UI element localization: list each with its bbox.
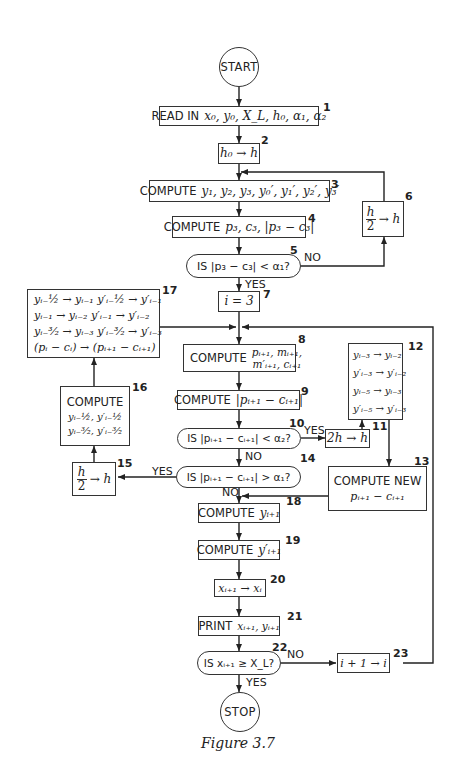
print-keyword: PRINT	[198, 619, 232, 634]
decision-10-text: IS |pᵢ₊₁ − cᵢ₊₁| < α₂?	[187, 431, 291, 446]
start-terminal: START	[219, 47, 259, 87]
step-number-5: 5	[290, 244, 298, 257]
decision-14-yes-label: YES	[152, 465, 173, 478]
step-number-18: 18	[286, 495, 301, 508]
step-number-19: 19	[285, 534, 300, 547]
double-h-box: 2h → h	[325, 429, 370, 448]
decision-alpha1-box: IS |p₃ − c₃| < α₁?	[186, 254, 301, 278]
advance-x-box: xᵢ₊₁ → xᵢ	[214, 579, 266, 597]
decision-5-text: IS |p₃ − c₃| < α₁?	[197, 259, 290, 274]
step-number-8: 8	[298, 333, 306, 346]
halve-h-box-15: h 2 → h	[72, 462, 116, 496]
compute-keyword-19: COMPUTE	[197, 543, 254, 558]
decision-10-yes-label: YES	[304, 424, 325, 437]
compute-new-content: COMPUTE NEW pᵢ₊₁ − cᵢ₊₁	[334, 474, 422, 504]
step-number-20: 20	[270, 573, 285, 586]
step-number-11: 11	[372, 420, 387, 433]
init-i-box: i = 3	[218, 291, 260, 312]
shift-values-lines-12: yᵢ₋₃ → yᵢ₋₂ y′ᵢ₋₃ → y′ᵢ₋₂ yᵢ₋₅ → yᵢ₋₃ y′…	[353, 346, 406, 418]
decision-22-no-label: NO	[287, 648, 304, 661]
compute-yprime-box: COMPUTE y′ᵢ₊₁	[198, 540, 280, 560]
shift-values-box-17: yᵢ₋½ → yᵢ₋₁ y′ᵢ₋½ → y′ᵢ₋₁ yᵢ₋₁ → yᵢ₋₂ y′…	[27, 289, 160, 358]
figure-caption: Figure 3.7	[201, 735, 275, 751]
step-number-21: 21	[287, 610, 302, 623]
compute-half-step-content: COMPUTE yᵢ₋½, y′ᵢ₋½ yᵢ₋³⁄₂, y′ᵢ₋³⁄₂	[67, 395, 124, 438]
double-h-expr: 2h → h	[327, 431, 368, 446]
step-number-3: 3	[331, 178, 339, 191]
decision-14-text: IS |pᵢ₊₁ − cᵢ₊₁| > α₁?	[187, 470, 291, 485]
compute-keyword-4: COMPUTE	[164, 220, 221, 235]
decision-end-box: IS xᵢ₊₁ ≥ X_L?	[197, 651, 281, 675]
stop-label: STOP	[224, 705, 256, 720]
read-input-box: READ IN x₀, y₀, X_L, h₀, α₁, α₂	[159, 106, 319, 126]
decision-22-text: IS xᵢ₊₁ ≥ X_L?	[204, 656, 274, 671]
compute-expr-8: pᵢ₊₁, mᵢ₊₁, m′ᵢ₊₁, cᵢ₊₁	[252, 346, 302, 370]
compute-keyword-8: COMPUTE	[190, 351, 247, 366]
read-in-keyword: READ IN	[152, 109, 200, 124]
increment-i-expr: i + 1 → i	[340, 656, 386, 671]
compute-half-step-box: COMPUTE yᵢ₋½, y′ᵢ₋½ yᵢ₋³⁄₂, y′ᵢ₋³⁄₂	[60, 386, 130, 446]
stop-terminal: STOP	[220, 692, 260, 732]
start-label: START	[221, 60, 258, 75]
step-number-12: 12	[408, 340, 423, 353]
shift-values-box-12: yᵢ₋₃ → yᵢ₋₂ y′ᵢ₋₃ → y′ᵢ₋₂ yᵢ₋₅ → yᵢ₋₃ y′…	[348, 343, 403, 420]
set-h-box: h₀ → h	[218, 143, 260, 164]
decision-alpha2-box: IS |pᵢ₊₁ − cᵢ₊₁| < α₂?	[177, 428, 301, 449]
compute-keyword-3: COMPUTE	[140, 184, 197, 199]
step-number-9: 9	[301, 385, 309, 398]
halve-h-expr-15: → h	[90, 472, 112, 487]
compute-expr-19: y′ᵢ₊₁	[258, 543, 281, 558]
compute-predictor-corrector-box: COMPUTE pᵢ₊₁, mᵢ₊₁, m′ᵢ₊₁, cᵢ₊₁	[183, 344, 296, 372]
step-number-23: 23	[393, 647, 408, 660]
step-number-22: 22	[272, 641, 287, 654]
decision-22-yes-label: YES	[246, 676, 267, 689]
step-number-17: 17	[162, 284, 177, 297]
compute-expr-9: |pᵢ₊₁ − cᵢ₊₁|	[236, 393, 303, 408]
decision-alpha1-check-box: IS |pᵢ₊₁ − cᵢ₊₁| > α₁?	[176, 466, 301, 488]
step-number-2: 2	[261, 134, 269, 147]
step-number-6: 6	[405, 190, 413, 203]
decision-14-no-label: NO	[222, 486, 239, 499]
fraction-h-over-2: h 2	[366, 206, 376, 233]
compute-expr-3: y₁, y₂, y₃, y₀′, y₁′, y₂′, y₃′	[201, 184, 339, 199]
compute-error-box: COMPUTE |pᵢ₊₁ − cᵢ₊₁|	[177, 390, 300, 410]
decision-10-no-label: NO	[245, 450, 262, 463]
init-i-expr: i = 3	[224, 294, 253, 309]
advance-x-expr: xᵢ₊₁ → xᵢ	[218, 581, 261, 596]
print-box: PRINT xᵢ₊₁, yᵢ₊₁	[198, 616, 280, 636]
compute-expr-18: yᵢ₊₁	[260, 506, 280, 521]
step-number-16: 16	[132, 381, 147, 394]
step-number-13: 13	[414, 455, 429, 468]
compute-keyword-18: COMPUTE	[198, 506, 255, 521]
compute-keyword-9: COMPUTE	[174, 393, 231, 408]
compute-y-box: COMPUTE yᵢ₊₁	[198, 503, 280, 523]
step-number-1: 1	[323, 101, 331, 114]
step-number-4: 4	[308, 212, 316, 225]
halve-h-box-6: h 2 → h	[362, 201, 404, 237]
compute-expr-4: p₃, c₃, |p₃ − c₃|	[225, 220, 314, 235]
set-h-expr: h₀ → h	[220, 146, 258, 161]
step-number-7: 7	[263, 288, 271, 301]
compute-new-difference-box: COMPUTE NEW pᵢ₊₁ − cᵢ₊₁	[328, 466, 427, 511]
decision-5-no-label: NO	[304, 251, 321, 264]
fraction-h-over-2-15: h 2	[77, 466, 87, 493]
step-number-10: 10	[289, 417, 304, 430]
read-in-expr: x₀, y₀, X_L, h₀, α₁, α₂	[204, 109, 326, 124]
halve-h-expr-6: → h	[379, 212, 401, 227]
shift-values-lines-17: yᵢ₋½ → yᵢ₋₁ y′ᵢ₋½ → y′ᵢ₋₁ yᵢ₋₁ → yᵢ₋₂ y′…	[34, 292, 162, 356]
compute-p3-c3-box: COMPUTE p₃, c₃, |p₃ − c₃|	[172, 216, 306, 238]
increment-i-box: i + 1 → i	[337, 653, 390, 673]
step-number-15: 15	[117, 457, 132, 470]
print-expr: xᵢ₊₁, yᵢ₊₁	[237, 619, 279, 634]
step-number-14: 14	[300, 452, 315, 465]
compute-starting-values-box: COMPUTE y₁, y₂, y₃, y₀′, y₁′, y₂′, y₃′	[149, 180, 330, 202]
